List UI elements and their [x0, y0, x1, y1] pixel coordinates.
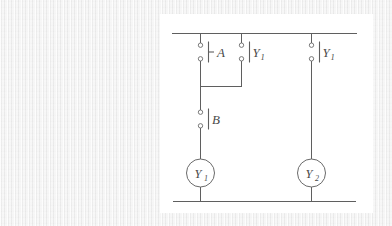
coil-y1-label-subscript: 1 — [204, 174, 208, 183]
contact-b-upper-terminal — [198, 110, 202, 114]
contact-y1-right[interactable]: Y 1 — [309, 42, 334, 63]
contact-y1-right-label-subscript: 1 — [331, 52, 335, 62]
contact-y1-seal-label-subscript: 1 — [261, 52, 265, 62]
contact-y1-seal-upper-terminal — [239, 43, 243, 47]
coil-y2-label-subscript: 2 — [315, 174, 319, 183]
contact-y1-seal-lower-terminal — [239, 57, 243, 61]
contact-b-lower-terminal — [198, 124, 202, 128]
coil-y2[interactable]: Y 2 — [298, 159, 326, 187]
figure-panel: A Y 1 B Y 1 — [160, 14, 373, 213]
contact-y1-seal[interactable]: Y 1 — [239, 42, 264, 63]
contact-a-label: A — [216, 45, 225, 60]
contact-a-lower-terminal — [198, 57, 202, 61]
contact-y1-right-lower-terminal — [309, 57, 313, 61]
page-root: A Y 1 B Y 1 — [0, 0, 392, 226]
ladder-logic-diagram: A Y 1 B Y 1 — [160, 14, 373, 213]
contact-b[interactable]: B — [198, 109, 220, 130]
contact-b-label: B — [212, 112, 220, 127]
contact-a-upper-terminal — [198, 43, 202, 47]
coil-y1[interactable]: Y 1 — [187, 159, 215, 187]
contact-y1-right-upper-terminal — [309, 43, 313, 47]
contact-a[interactable]: A — [198, 42, 225, 63]
